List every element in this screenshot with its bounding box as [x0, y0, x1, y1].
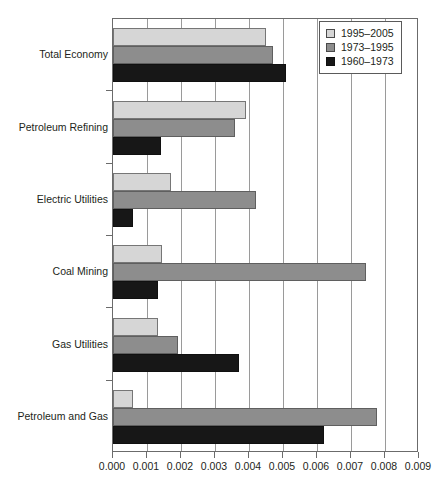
bar [113, 263, 366, 281]
bar [113, 101, 246, 119]
medium-gray-swatch [326, 43, 335, 52]
gridline [249, 19, 250, 451]
bar [113, 336, 178, 354]
bar [113, 318, 158, 336]
legend-item-label: 1995–2005 [341, 27, 394, 39]
bar [113, 46, 273, 64]
bar [113, 426, 324, 444]
gridline [351, 19, 352, 451]
x-axis-tick [282, 452, 283, 458]
bar [113, 408, 377, 426]
light-gray-swatch [326, 29, 335, 38]
bar [113, 281, 158, 299]
legend-item-label: 1973–1995 [341, 41, 394, 53]
x-axis-tick [214, 452, 215, 458]
y-axis-label: Gas Utilities [0, 338, 108, 350]
x-axis-tick [248, 452, 249, 458]
y-axis-tick [106, 90, 112, 91]
y-axis-label: Total Economy [0, 48, 108, 60]
legend-item: 1960–1973 [326, 54, 394, 68]
bar [113, 64, 286, 82]
y-axis-label: Petroleum and Gas [0, 410, 108, 422]
y-axis-category-labels: Total EconomyPetroleum RefiningElectric … [0, 18, 108, 452]
bar [113, 173, 171, 191]
y-axis-tick [106, 235, 112, 236]
x-axis-tick [316, 452, 317, 458]
x-axis-tick [350, 452, 351, 458]
y-axis-label: Coal Mining [0, 265, 108, 277]
x-axis-tick [146, 452, 147, 458]
bar [113, 28, 266, 46]
bar-group [113, 390, 417, 444]
x-axis-ticks [112, 452, 418, 460]
bar-group [113, 318, 417, 372]
x-axis-tick [384, 452, 385, 458]
gridline [283, 19, 284, 451]
x-axis-tick [180, 452, 181, 458]
black-swatch [326, 57, 335, 66]
y-axis-tick [106, 307, 112, 308]
x-axis-tick [418, 452, 419, 458]
bar [113, 209, 133, 227]
x-axis-tick [112, 452, 113, 458]
bar [113, 390, 133, 408]
bar [113, 245, 162, 263]
gridline [215, 19, 216, 451]
plot-area [112, 18, 418, 452]
gridline [385, 19, 386, 451]
bar [113, 119, 235, 137]
legend-item: 1973–1995 [326, 40, 394, 54]
x-axis-tick-labels: 0.0000.0010.0020.0030.0040.0050.0060.007… [0, 460, 434, 480]
y-axis-tick [106, 380, 112, 381]
gridline [181, 19, 182, 451]
legend-item-label: 1960–1973 [341, 55, 394, 67]
legend-item: 1995–2005 [326, 26, 394, 40]
y-axis-tick [106, 163, 112, 164]
y-axis-label: Electric Utilities [0, 193, 108, 205]
bar [113, 354, 239, 372]
bar-group [113, 101, 417, 155]
bar-group [113, 173, 417, 227]
x-axis-tick-label: 0.009 [395, 460, 434, 472]
bar-group [113, 245, 417, 299]
bar [113, 191, 256, 209]
y-axis-label: Petroleum Refining [0, 121, 108, 133]
bar [113, 137, 161, 155]
chart-legend: 1995–20051973–19951960–1973 [319, 21, 402, 74]
gridline [147, 19, 148, 451]
bar-chart: Total EconomyPetroleum RefiningElectric … [0, 0, 434, 487]
gridline [317, 19, 318, 451]
